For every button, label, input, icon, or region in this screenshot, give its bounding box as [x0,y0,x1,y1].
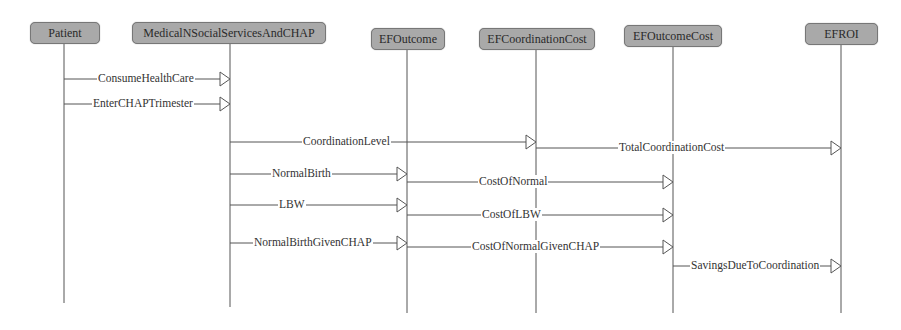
message-label: NormalBirth [271,167,332,180]
message-label: NormalBirthGivenCHAP [253,236,373,249]
arrowhead-icon [663,240,673,254]
message-label: EnterCHAPTrimester [92,97,194,110]
message-label: ConsumeHealthCare [97,72,195,85]
participant-efoutcome[interactable]: EFOutcome [371,28,445,50]
participant-efcoordcost[interactable]: EFCoordinationCost [479,28,595,50]
message-label: CoordinationLevel [302,135,391,148]
arrowhead-icon [663,175,673,189]
arrowhead-icon [397,167,407,181]
participant-patient[interactable]: Patient [30,22,100,44]
message-label: SavingsDueToCoordination [690,259,820,272]
participant-efoutcomecost[interactable]: EFOutcomeCost [624,25,722,47]
message-label: CostOfLBW [481,208,542,221]
sequence-diagram-canvas [0,0,901,330]
arrowhead-icon [831,141,841,155]
message-label: CostOfNormalGivenCHAP [471,240,600,253]
arrowhead-icon [220,97,230,111]
message-label: TotalCoordinationCost [618,141,725,154]
arrowhead-icon [663,208,673,222]
arrowhead-icon [831,259,841,273]
arrowhead-icon [397,198,407,212]
participant-efroi[interactable]: EFROI [805,23,878,45]
message-label: CostOfNormal [478,175,548,188]
arrowhead-icon [220,72,230,86]
message-label: LBW [278,198,306,211]
arrowhead-icon [397,236,407,250]
participant-mnss[interactable]: MedicalNSocialServicesAndCHAP [132,22,326,44]
arrowhead-icon [526,135,536,149]
